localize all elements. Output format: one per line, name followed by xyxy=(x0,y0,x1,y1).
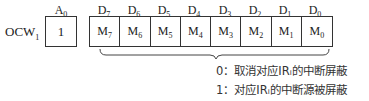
note-mask: 1：对应IRᵢ的中断源被屏蔽 xyxy=(216,81,347,97)
note-unmask: 0：取消对应IRᵢ的中断屏蔽 xyxy=(216,62,347,78)
